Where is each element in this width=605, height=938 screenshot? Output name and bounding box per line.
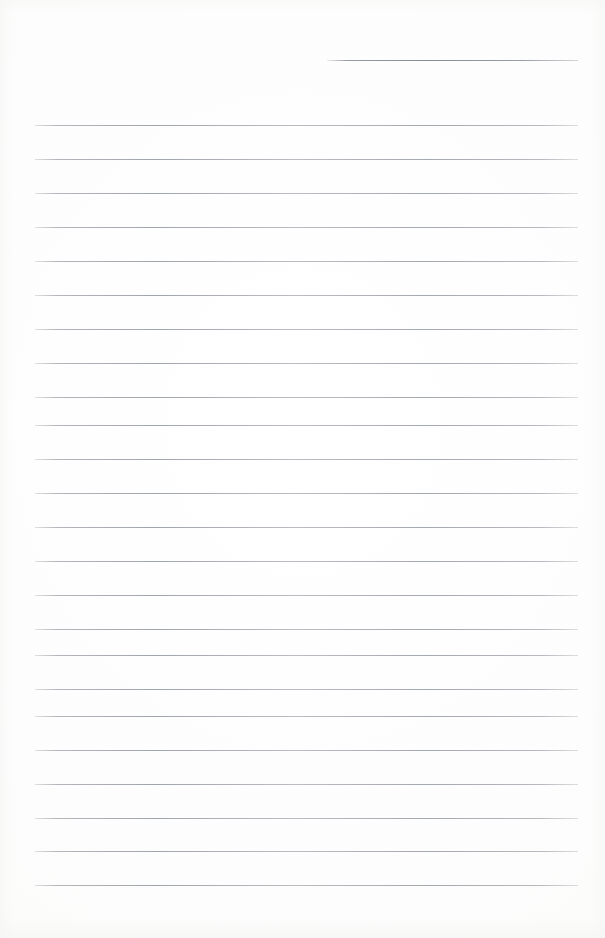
rule-line bbox=[35, 629, 578, 630]
scan-noise-overlay bbox=[0, 0, 605, 938]
rule-line bbox=[35, 655, 578, 656]
paper-background bbox=[0, 0, 605, 938]
rule-line bbox=[35, 159, 578, 160]
rule-line bbox=[35, 851, 578, 852]
rule-line bbox=[35, 493, 578, 494]
bleed-through-ghost-top: illegible bbox=[145, 57, 303, 98]
rule-line bbox=[35, 329, 578, 330]
rule-line bbox=[35, 561, 578, 562]
rule-line bbox=[35, 689, 578, 690]
rule-line bbox=[35, 784, 578, 785]
scanned-page: illegible illegible illegible smudged li… bbox=[0, 0, 605, 938]
rule-line bbox=[35, 125, 578, 126]
bleed-through-ghost-bottom-secondary: illegible bbox=[96, 884, 161, 900]
rule-line bbox=[35, 527, 578, 528]
rule-line bbox=[35, 425, 578, 426]
rule-line bbox=[35, 595, 578, 596]
rule-line bbox=[35, 750, 578, 751]
rule-line bbox=[35, 818, 578, 819]
rule-line bbox=[35, 716, 578, 717]
rule-line bbox=[35, 363, 578, 364]
rule-line bbox=[35, 885, 578, 886]
rule-line bbox=[35, 397, 578, 398]
rule-line-partial bbox=[327, 60, 578, 61]
rule-line bbox=[35, 227, 578, 228]
rule-line bbox=[35, 193, 578, 194]
rule-line bbox=[35, 261, 578, 262]
rule-line bbox=[35, 295, 578, 296]
scan-edge-shading bbox=[0, 0, 605, 938]
bleed-through-ghost-bottom: illegible smudged line bbox=[8, 901, 206, 922]
rule-line bbox=[35, 459, 578, 460]
